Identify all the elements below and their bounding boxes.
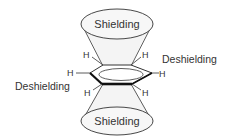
deshielding-left-label: Deshielding	[15, 80, 70, 92]
h-bottom-left: H	[84, 88, 91, 98]
shielding-bottom-label: Shielding	[94, 115, 139, 127]
h-bottom-right: H	[142, 88, 149, 98]
h-top-left: H	[83, 50, 90, 60]
benzene-shielding-diagram: Shielding Shielding H H H H H H Deshie	[0, 0, 230, 137]
h-right: H	[159, 69, 166, 79]
h-left: H	[67, 68, 74, 78]
deshielding-right-label: Deshielding	[162, 53, 217, 65]
h-top-right: H	[142, 50, 149, 60]
benzene-ring	[90, 65, 152, 84]
shielding-top-label: Shielding	[94, 18, 139, 30]
